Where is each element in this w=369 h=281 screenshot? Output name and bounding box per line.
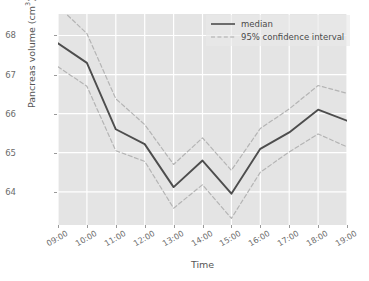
x-tick-mark <box>231 225 232 228</box>
y-tick-mark <box>54 114 57 115</box>
y-tick-label: 68 <box>0 30 16 40</box>
x-tick-label: 18:00 <box>305 229 329 248</box>
x-tick-label: 17:00 <box>276 229 300 248</box>
legend-line-confidence-interval-icon <box>211 33 235 41</box>
x-tick-mark <box>116 225 117 228</box>
y-axis-label-text: Pancreas volume (cm <box>26 6 37 108</box>
legend-line-median-icon <box>211 20 235 28</box>
legend-item-median: median <box>211 19 344 29</box>
x-tick-mark <box>87 225 88 228</box>
y-axis-label: Pancreas volume (cm3) <box>24 0 36 146</box>
y-tick-mark <box>54 153 57 154</box>
x-tick-mark <box>260 225 261 228</box>
chart-legend: median 95% confidence interval <box>206 15 350 46</box>
x-tick-label: 16:00 <box>247 229 271 248</box>
y-axis-label-superscript: 3 <box>24 2 32 6</box>
x-tick-label: 13:00 <box>161 229 185 248</box>
x-tick-mark <box>174 225 175 228</box>
x-tick-label: 19:00 <box>334 229 358 248</box>
x-tick-label: 12:00 <box>132 229 156 248</box>
x-tick-mark <box>203 225 204 228</box>
y-tick-mark <box>54 35 57 36</box>
x-tick-label: 09:00 <box>45 229 69 248</box>
y-axis-label-tail: ) <box>26 0 37 2</box>
x-tick-mark <box>289 225 290 228</box>
y-tick-label: 64 <box>0 187 16 197</box>
y-tick-label: 65 <box>0 148 16 158</box>
legend-item-confidence-interval: 95% confidence interval <box>211 32 344 42</box>
legend-swatch-confidence-interval <box>211 33 235 41</box>
x-tick-mark <box>145 225 146 228</box>
x-tick-mark <box>318 225 319 228</box>
legend-label-confidence-interval: 95% confidence interval <box>241 32 344 42</box>
legend-label-median: median <box>241 19 273 29</box>
x-tick-mark <box>347 225 348 228</box>
chart-figure: Pancreas volume (cm3) 6465666768 09:0010… <box>0 0 369 281</box>
legend-swatch-median <box>211 20 235 28</box>
y-tick-mark <box>54 192 57 193</box>
y-tick-label: 67 <box>0 70 16 80</box>
x-tick-label: 11:00 <box>103 229 127 248</box>
y-tick-label: 66 <box>0 109 16 119</box>
x-tick-label: 14:00 <box>190 229 214 248</box>
x-tick-label: 10:00 <box>74 229 98 248</box>
x-axis-label: Time <box>58 259 347 270</box>
x-tick-label: 15:00 <box>218 229 242 248</box>
y-tick-mark <box>54 75 57 76</box>
x-tick-mark <box>58 225 59 228</box>
